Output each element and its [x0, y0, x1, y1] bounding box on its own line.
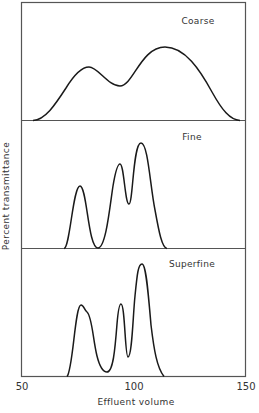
- superfine-label: Superfine: [169, 259, 215, 269]
- coarse-curve: [33, 47, 240, 121]
- superfine-curve: [67, 264, 164, 377]
- fine-curve: [64, 143, 167, 249]
- fine-label: Fine: [182, 132, 202, 142]
- x-tick-150: 150: [236, 381, 255, 392]
- x-tick-50: 50: [16, 381, 29, 392]
- coarse-label: Coarse: [181, 16, 214, 26]
- y-axis-label: Percent transmittance: [1, 142, 11, 250]
- x-tick-100: 100: [124, 381, 143, 392]
- x-axis-label: Effluent volume: [97, 397, 174, 407]
- chromatogram-chart: Coarse Fine Superfine 50 100 150 Effluen…: [0, 0, 259, 413]
